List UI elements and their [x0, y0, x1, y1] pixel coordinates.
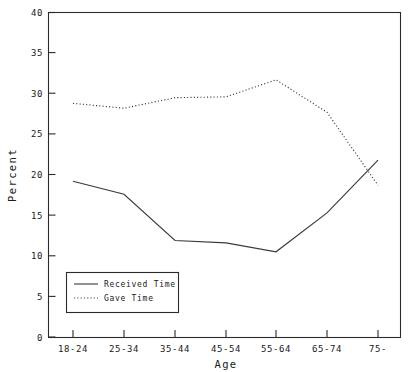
y-axis-tick-labels: 0 5 10 15 20 25 30 35 40 [31, 8, 43, 343]
chart-canvas: 0 5 10 15 20 25 30 35 40 18-24 25-34 35-… [0, 0, 413, 372]
x-axis-ticks [73, 330, 378, 337]
series-line-received-time [73, 160, 378, 252]
y-tick-label: 15 [31, 211, 43, 221]
y-tick-label: 40 [31, 8, 43, 18]
x-axis-tick-labels: 18-24 25-34 35-44 45-54 55-64 65-74 75- [58, 344, 387, 354]
x-tick-label: 35-44 [160, 344, 190, 354]
y-tick-label: 0 [37, 333, 43, 343]
y-axis-title: Percent [6, 148, 18, 202]
x-tick-label: 55-64 [261, 344, 291, 354]
legend-label-received-time: Received Time [104, 280, 176, 289]
y-tick-label: 10 [31, 251, 43, 261]
y-tick-label: 25 [31, 129, 43, 139]
x-tick-label: 25-34 [109, 344, 139, 354]
y-axis-ticks [49, 13, 56, 338]
x-tick-label: 65-74 [312, 344, 342, 354]
x-tick-label: 18-24 [58, 344, 88, 354]
y-tick-label: 5 [37, 292, 43, 302]
legend-label-gave-time: Gave Time [104, 294, 154, 303]
y-tick-label: 35 [31, 48, 43, 58]
line-chart: 0 5 10 15 20 25 30 35 40 18-24 25-34 35-… [0, 0, 413, 372]
x-axis-title: Age [214, 358, 237, 370]
legend-frame [67, 273, 179, 313]
x-tick-label: 75- [369, 344, 387, 354]
x-tick-label: 45-54 [211, 344, 241, 354]
y-tick-label: 30 [31, 89, 43, 99]
y-tick-label: 20 [31, 170, 43, 180]
series-line-gave-time [73, 80, 378, 185]
chart-legend: Received Time Gave Time [67, 273, 179, 313]
